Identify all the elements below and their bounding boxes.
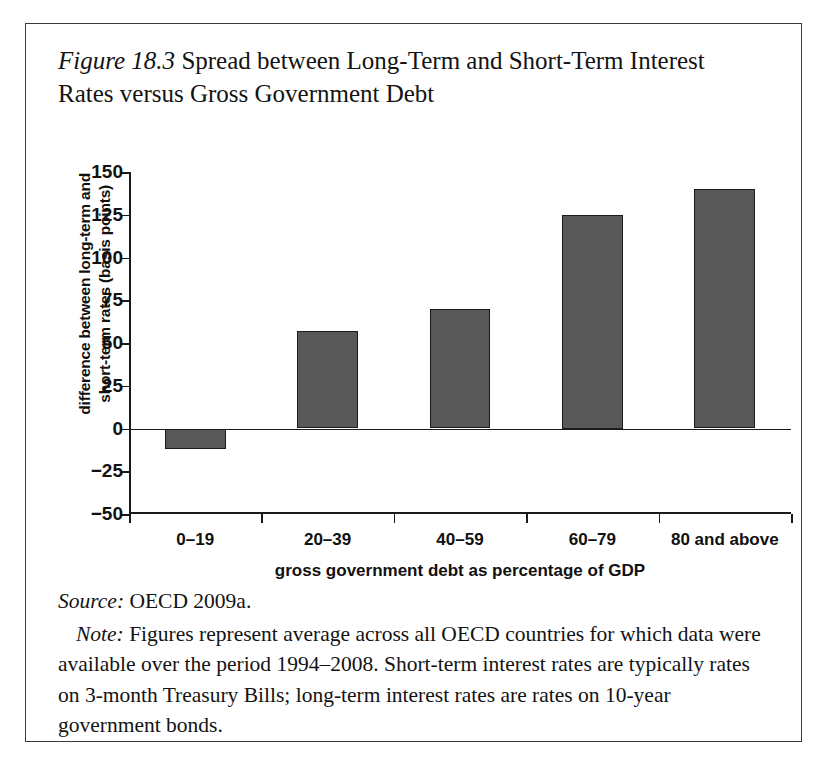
y-tick-label: 50 <box>102 332 123 354</box>
bar <box>430 309 491 429</box>
source-text: OECD 2009a. <box>124 589 251 613</box>
x-category-label: 60–79 <box>569 530 616 550</box>
x-tick-mark <box>526 514 528 523</box>
bar <box>297 331 358 428</box>
source-line: Source: OECD 2009a. <box>58 586 770 617</box>
plot-area: 1501251007550250−25−50 0–1920–3940–5960–… <box>129 172 791 514</box>
x-category-label: 40–59 <box>436 530 483 550</box>
x-tick-mark <box>791 514 793 523</box>
x-tick-mark <box>261 514 263 523</box>
bar <box>562 215 623 429</box>
y-tick-label: 25 <box>102 375 123 397</box>
y-tick-label: 75 <box>102 289 123 311</box>
y-tick-label: −50 <box>91 503 123 525</box>
y-tick-label: 0 <box>112 418 123 440</box>
note-label: Note: <box>76 622 124 646</box>
bar <box>694 189 755 428</box>
figure-caption: Figure 18.3 Spread between Long-Term and… <box>58 44 758 110</box>
source-label: Source: <box>58 589 124 613</box>
x-axis-title: gross government debt as percentage of G… <box>129 561 791 581</box>
y-tick-label: 150 <box>91 161 123 183</box>
y-tick-label: −25 <box>91 460 123 482</box>
figure-number: Figure 18.3 <box>58 47 175 74</box>
y-tick-label: 100 <box>91 247 123 269</box>
x-tick-mark <box>394 514 396 523</box>
x-tick-mark <box>659 514 661 523</box>
figure-notes: Source: OECD 2009a. Note: Figures repres… <box>58 586 770 741</box>
x-category-label: 20–39 <box>304 530 351 550</box>
zero-reference-line <box>129 429 791 431</box>
note-line: Note: Figures represent average across a… <box>58 619 770 741</box>
x-category-label: 80 and above <box>671 530 779 550</box>
bar <box>165 429 226 450</box>
bar-chart: difference between long-term and short-t… <box>26 119 803 574</box>
x-category-label: 0–19 <box>176 530 214 550</box>
note-text: Figures represent average across all OEC… <box>58 622 761 738</box>
y-tick-label: 125 <box>91 204 123 226</box>
x-axis-line <box>129 512 791 514</box>
y-axis-line <box>129 172 131 514</box>
figure-frame: Figure 18.3 Spread between Long-Term and… <box>25 23 802 742</box>
x-tick-mark <box>129 514 131 523</box>
